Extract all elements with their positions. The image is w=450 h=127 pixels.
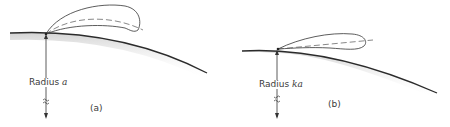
radius-symbol-a: a — [62, 77, 67, 87]
caption-a: (a) — [90, 103, 103, 113]
radius-label-a: Radius a — [28, 78, 68, 87]
radius-symbol-b: ka — [292, 79, 303, 89]
earth-shading-b — [242, 51, 437, 99]
arrow-head-down-b — [275, 113, 279, 119]
panel-a — [10, 5, 207, 119]
radius-label-b-prefix: Radius — [259, 79, 289, 89]
caption-b: (b) — [328, 99, 341, 109]
lobe-axis-a — [46, 19, 143, 34]
antenna-point-b — [277, 48, 280, 51]
radiation-lobe-b — [278, 34, 366, 50]
radius-label-b: Radius ka — [258, 80, 304, 89]
diagram-canvas — [0, 0, 450, 127]
arrow-head-down-a — [44, 113, 48, 119]
radius-label-a-prefix: Radius — [29, 77, 59, 87]
